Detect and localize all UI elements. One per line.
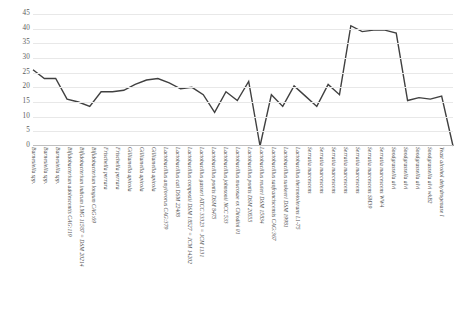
- x-axis-tick-label: Frischella perrara: [112, 147, 123, 307]
- x-axis-tick-label: Lactobacillus gasseri ATCC 33323 = JCM 1…: [196, 147, 207, 307]
- y-axis-tick-label: 40: [6, 25, 30, 32]
- x-axis-tick-label-text: Lactobacillus reuteri DSM 15834: [256, 147, 267, 307]
- y-axis-tick-label: 5: [6, 127, 30, 134]
- x-axis-tick-label-text: Gilliamella apicola: [136, 147, 147, 307]
- x-axis-tick-label: Bifidobacterium adolescentis CAG:119: [64, 147, 75, 307]
- y-axis: 051015202530354045: [0, 14, 30, 146]
- x-axis-tick-label-text: Lactobacillus thermotolerans L1-75: [292, 147, 303, 307]
- gridline: [33, 58, 453, 59]
- x-axis-tick-label-text: Serratia marcescens: [304, 147, 315, 307]
- gridline: [33, 87, 453, 88]
- gridline: [33, 117, 453, 118]
- x-axis-tick-label-text: Bifidobacterium indicum LMG 11587 = DSM …: [76, 147, 87, 307]
- x-axis-tick-label: Snodgrassella alvi: [388, 147, 399, 307]
- x-axis-tick-label: Barnesiella spp.: [52, 147, 63, 307]
- x-axis-tick-label: Lactobacillus compostii DSM 18527 = JCM …: [184, 147, 195, 307]
- x-axis-tick-label: Serratia marcescens SM39: [364, 147, 375, 307]
- x-axis-tick-label-text: Barnesiella spp.: [40, 147, 51, 307]
- x-axis-tick-label-text: Bifidobacterium adolescentis CAG:119: [64, 147, 75, 307]
- gridline: [33, 29, 453, 30]
- gridline: [33, 14, 453, 15]
- x-axis-tick-label-text: Snodgrassella alvi: [388, 147, 399, 307]
- y-axis-tick-label: 10: [6, 113, 30, 120]
- x-axis-tick-label-text: Lactobacillus compostii DSM 18527 = JCM …: [184, 147, 195, 307]
- x-axis-tick-label: Snodgrassella alvi: [400, 147, 411, 307]
- x-axis-tick-label: Lactobacillus sanfranciscensis CAG:367: [268, 147, 279, 307]
- y-axis-tick-label: 25: [6, 69, 30, 76]
- x-axis-tick-label: Lactobacillus pontis DSM 8475: [208, 147, 219, 307]
- y-axis-tick-label: 0: [6, 142, 30, 149]
- x-axis-tick-label: Lactobacillus cati DSM 22408: [172, 147, 183, 307]
- x-axis-tick-label: Serratia marcescens: [352, 147, 363, 307]
- x-axis-tick-label-text: Lactobacillus gasseri ATCC 33323 = JCM 1…: [196, 147, 207, 307]
- x-axis-tick-label: Frischella perrara: [100, 147, 111, 307]
- x-axis-tick-label: Lactobacillus sunkeeri DSM 19981: [280, 147, 291, 307]
- x-axis-tick-label-text: Serratia marcescens WW4: [376, 147, 387, 307]
- x-axis-tick-label-text: Serratia marcescens SM39: [364, 147, 375, 307]
- x-axis-tick-label: Snodgrassella alvi wkB2: [424, 147, 435, 307]
- gridline: [33, 43, 453, 44]
- y-axis-tick-label: 15: [6, 98, 30, 105]
- x-axis-tick-label-text: Serratia marcescens: [328, 147, 339, 307]
- x-axis-line: [33, 145, 453, 146]
- x-axis-tick-label: Serratia marcescens: [316, 147, 327, 307]
- x-axis-tick-label-text: Lactobacillus johnsonii NCC 533: [220, 147, 231, 307]
- x-axis-tick-label-text: Frischella perrara: [100, 147, 111, 307]
- x-axis-tick-label: Snodgrassella alvi: [412, 147, 423, 307]
- x-axis-tick-label-text: Serratia marcescens: [340, 147, 351, 307]
- data-series-line: [33, 14, 453, 146]
- x-axis-tick-label: Bifidobacterium indicum LMG 11587 = DSM …: [76, 147, 87, 307]
- x-axis-tick-label-text: Lactobacillus sunkeeri DSM 19981: [280, 147, 291, 307]
- x-axis-tick-label-text: Frischella perrara: [112, 147, 123, 307]
- x-axis-tick-label: Serratia marcescens: [328, 147, 339, 307]
- y-axis-tick-label: 35: [6, 39, 30, 46]
- x-axis-tick-label: Lactobacillus pontis DSM 20555: [244, 147, 255, 307]
- plot-area: [33, 14, 453, 146]
- x-axis-tick-label: Barnesiella spp.: [40, 147, 51, 307]
- x-axis-tick-label-text: Yeast alcohol dehydrogenase I: [436, 147, 447, 307]
- x-axis-labels: Barnesiella spp.Barnesiella spp.Barnesie…: [33, 147, 453, 315]
- x-axis-tick-label-text: Barnesiella spp.: [52, 147, 63, 307]
- x-axis-tick-label-text: Gilliamella apicola: [148, 147, 159, 307]
- x-axis-tick-label-text: Snodgrassella alvi wkB2: [424, 147, 435, 307]
- x-axis-tick-label: Barnesiella spp.: [28, 147, 39, 307]
- x-axis-tick-label: Gilliamella apicola: [148, 147, 159, 307]
- x-axis-tick-label-text: Lactobacillus pontis DSM 8475: [208, 147, 219, 307]
- line-chart: 051015202530354045 Barnesiella spp.Barne…: [0, 0, 459, 317]
- y-axis-tick-label: 45: [6, 10, 30, 17]
- x-axis-tick-label-text: Lactobacillus cati DSM 22408: [172, 147, 183, 307]
- gridline: [33, 73, 453, 74]
- gridline: [33, 131, 453, 132]
- x-axis-tick-label-text: Snodgrassella alvi: [412, 147, 423, 307]
- x-axis-tick-label: Serratia marcescens WW4: [376, 147, 387, 307]
- x-axis-tick-label-text: Snodgrassella alvi: [400, 147, 411, 307]
- x-axis-tick-label: Lactobacillus johnsonii NCC 533: [220, 147, 231, 307]
- x-axis-tick-label: Serratia marcescens: [304, 147, 315, 307]
- x-axis-tick-label-text: Lactobacillus pontis DSM 20555: [244, 147, 255, 307]
- x-axis-tick-label: Yeast alcohol dehydrogenase I: [436, 147, 447, 307]
- y-axis-tick-label: 20: [6, 83, 30, 90]
- x-axis-tick-label-text: Serratia marcescens: [352, 147, 363, 307]
- x-axis-tick-label-text: Gilliamella apicola: [124, 147, 135, 307]
- gridline: [33, 102, 453, 103]
- x-axis-tick-label: Bifidobacterium longum CAG:69: [88, 147, 99, 307]
- x-axis-tick-label: Gilliamella apicola: [136, 147, 147, 307]
- y-axis-tick-label: 30: [6, 54, 30, 61]
- x-axis-tick-label-text: Lactobacillus sanfranciscensis CAG:367: [268, 147, 279, 307]
- x-axis-tick-label-text: Serratia marcescens: [316, 147, 327, 307]
- x-axis-tick-label: Lactobacillus amylovorus CAG:379: [160, 147, 171, 307]
- x-axis-tick-label: Lactobacillus mucosae ex Chiodini 01: [232, 147, 243, 307]
- x-axis-tick-label: Serratia marcescens: [340, 147, 351, 307]
- x-axis-tick-label-text: Barnesiella spp.: [28, 147, 39, 307]
- x-axis-tick-label-text: Bifidobacterium longum CAG:69: [88, 147, 99, 307]
- x-axis-tick-label: Gilliamella apicola: [124, 147, 135, 307]
- x-axis-tick-label: Lactobacillus reuteri DSM 15834: [256, 147, 267, 307]
- x-axis-tick-label: Lactobacillus thermotolerans L1-75: [292, 147, 303, 307]
- x-axis-tick-label-text: Lactobacillus mucosae ex Chiodini 01: [232, 147, 243, 307]
- x-axis-tick-label-text: Lactobacillus amylovorus CAG:379: [160, 147, 171, 307]
